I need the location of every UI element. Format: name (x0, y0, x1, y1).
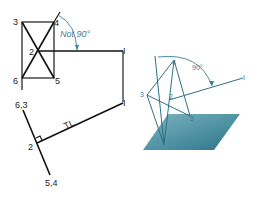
edge-4-3 (147, 60, 174, 95)
label-point-1-edge: I (123, 98, 126, 108)
label-point-4-pictorial: 4 (172, 59, 176, 66)
arrowhead-icon (75, 45, 79, 50)
label-point-6-3: 6,3 (15, 100, 28, 110)
edge-4-5 (174, 60, 190, 116)
top-view (22, 12, 123, 102)
label-point-4: 4 (54, 18, 59, 28)
edge-view (23, 103, 123, 175)
label-point-5-pictorial: 5 (190, 115, 194, 122)
angle-arc-90 (158, 56, 212, 86)
label-true-length: TL (62, 118, 76, 132)
label-point-3: 3 (13, 17, 18, 27)
right-angle-mark-icon (36, 136, 42, 140)
label-point-2-edge: 2 (28, 142, 33, 152)
label-point-5: 5 (55, 76, 60, 86)
true-length-line-2-1 (37, 103, 123, 143)
label-point-5-4: 5,4 (45, 178, 58, 188)
label-point-1-top: I (123, 46, 126, 56)
label-point-2-pictorial: 2 (169, 93, 173, 100)
angle-note-90: 90° (192, 64, 203, 71)
diagram-canvas: 3 4 2 6 5 I Not 90° 6,3 2 5,4 I TL 4 3 2… (0, 0, 257, 199)
label-point-6: 6 (13, 76, 18, 86)
label-point-2: 2 (29, 47, 34, 57)
label-point-3-pictorial: 3 (140, 91, 144, 98)
label-point-1-pictorial: I (243, 74, 245, 81)
angle-note-not-90: Not 90° (60, 29, 91, 39)
